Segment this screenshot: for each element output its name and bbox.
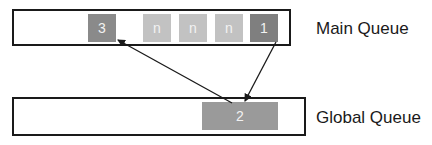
arrow-1-to-2	[245, 42, 276, 101]
arrows-layer	[0, 0, 432, 145]
arrow-2-to-3	[118, 40, 232, 103]
